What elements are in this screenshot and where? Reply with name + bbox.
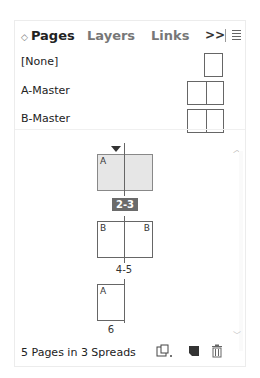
panel-menu-icon[interactable] — [232, 30, 241, 42]
scrollbar[interactable] — [239, 151, 243, 351]
tab-links[interactable]: Links — [151, 28, 189, 43]
spread-4-5[interactable]: B B — [97, 221, 153, 258]
section-divider — [15, 129, 245, 130]
master-a-thumb[interactable] — [187, 81, 224, 105]
master-none[interactable]: [None] — [21, 55, 58, 68]
spread-6[interactable]: A — [97, 284, 124, 321]
new-page-icon[interactable] — [188, 343, 200, 362]
overflow-chevrons-icon[interactable]: >> — [205, 28, 225, 42]
updown-icon: ◇ — [21, 32, 28, 42]
spread-label-2-3: 2-3 — [112, 198, 138, 211]
spread-2-3[interactable]: A — [97, 154, 153, 191]
pages-panel: ◇Pages Layers Links >> [None] A-Master B… — [14, 20, 246, 367]
panel-tabs: ◇Pages Layers Links >> — [15, 21, 245, 49]
master-none-thumb[interactable] — [204, 53, 223, 77]
current-page-indicator-icon — [111, 146, 121, 152]
delete-page-icon[interactable] — [211, 343, 223, 362]
tab-pages[interactable]: ◇Pages — [21, 28, 75, 43]
master-a[interactable]: A-Master — [21, 84, 70, 97]
panel-footer: 5 Pages in 3 Spreads — [15, 339, 245, 365]
edit-page-size-icon[interactable] — [156, 343, 174, 362]
header-separator — [225, 29, 226, 42]
master-b[interactable]: B-Master — [21, 112, 70, 125]
tab-layers[interactable]: Layers — [87, 28, 135, 43]
pages-status: 5 Pages in 3 Spreads — [21, 346, 136, 359]
spread-label-4-5: 4-5 — [94, 264, 154, 275]
spread-label-6: 6 — [81, 324, 141, 335]
